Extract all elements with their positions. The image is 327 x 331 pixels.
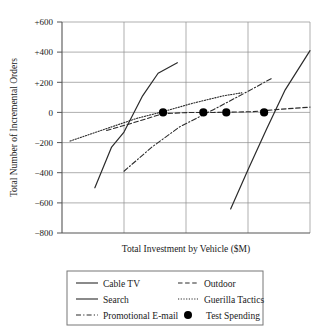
ytick-label-600: +600	[34, 17, 53, 27]
y-tick-labels: +600 +400 +200 0 −200 −400 −600 −800	[34, 17, 53, 238]
chart-figure: +600 +400 +200 0 −200 −400 −600 −800 Tot…	[0, 0, 327, 331]
ytick-label-minus200: −200	[34, 138, 53, 148]
ytick-label-400: +400	[34, 47, 53, 57]
ytick-label-minus800: −800	[34, 228, 53, 238]
legend-item-cable-tv[interactable]: Cable TV	[76, 279, 140, 289]
legend-label-outdoor: Outdoor	[204, 279, 237, 289]
x-axis-title: Total Investment by Vehicle ($M)	[122, 244, 250, 255]
legend-item-guerilla-tactics[interactable]: Guerilla Tactics	[178, 295, 264, 305]
legend-item-search[interactable]: Search	[76, 295, 129, 305]
ytick-label-minus600: −600	[34, 198, 53, 208]
test-spending-marker-2	[199, 108, 207, 116]
legend-swatch-marker-test-spending	[184, 311, 192, 319]
y-axis-title: Total Number of Incremental Orders	[9, 58, 19, 197]
legend-item-promotional-email[interactable]: Promotional E-mail	[76, 311, 179, 321]
chart-legend: Cable TV Search Promotional E-mail Outdo…	[67, 271, 264, 325]
ytick-label-minus400: −400	[34, 168, 53, 178]
legend-label-search: Search	[103, 295, 129, 305]
legend-label-test-spending: Test Spending	[206, 311, 260, 321]
legend-label-promotional-email: Promotional E-mail	[103, 311, 179, 321]
y-tick-marks	[57, 22, 62, 233]
incremental-orders-chart: +600 +400 +200 0 −200 −400 −600 −800 Tot…	[0, 0, 327, 331]
test-spending-marker-3	[222, 108, 230, 116]
ytick-label-0: 0	[49, 108, 54, 118]
legend-label-guerilla-tactics: Guerilla Tactics	[204, 295, 264, 305]
test-spending-marker-1	[159, 108, 167, 116]
test-spending-marker-4	[260, 108, 268, 116]
legend-item-test-spending[interactable]: Test Spending	[184, 311, 260, 321]
legend-item-outdoor[interactable]: Outdoor	[178, 279, 237, 289]
legend-label-cable-tv: Cable TV	[103, 279, 140, 289]
ytick-label-200: +200	[34, 78, 53, 88]
